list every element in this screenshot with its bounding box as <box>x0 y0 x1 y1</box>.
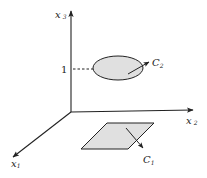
diagram-canvas: x3 x2 x1 1 C2 C1 <box>0 0 207 178</box>
x2-axis <box>71 110 193 112</box>
c1-label: C1 <box>143 154 154 166</box>
parallelogram-c1 <box>81 123 154 149</box>
x1-axis-label: x1 <box>11 158 20 169</box>
x3-axis-label: x3 <box>55 9 67 20</box>
c2-label: C2 <box>152 57 164 69</box>
x3-tick-label: 1 <box>61 64 67 75</box>
ellipse-c2 <box>93 56 143 80</box>
x2-axis-label: x2 <box>186 115 198 126</box>
3d-axes-diagram: x3 x2 x1 1 C2 C1 <box>0 0 207 178</box>
x1-axis <box>13 112 71 157</box>
